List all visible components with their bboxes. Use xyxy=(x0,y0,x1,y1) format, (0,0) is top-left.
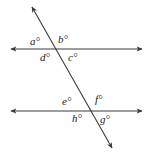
angle-label-a: a° xyxy=(30,36,40,47)
angle-label-g: g° xyxy=(100,114,110,125)
angle-label-f: f° xyxy=(95,94,102,105)
transversal-line xyxy=(32,7,112,148)
angle-label-h: h° xyxy=(72,113,82,124)
angle-label-e: e° xyxy=(62,96,71,107)
angle-label-d: d° xyxy=(40,52,50,63)
geometry-canvas xyxy=(0,0,157,156)
angle-label-b: b° xyxy=(58,34,68,45)
geometry-figure: a° b° d° c° e° f° h° g° xyxy=(0,0,157,156)
angle-label-c: c° xyxy=(68,52,77,63)
